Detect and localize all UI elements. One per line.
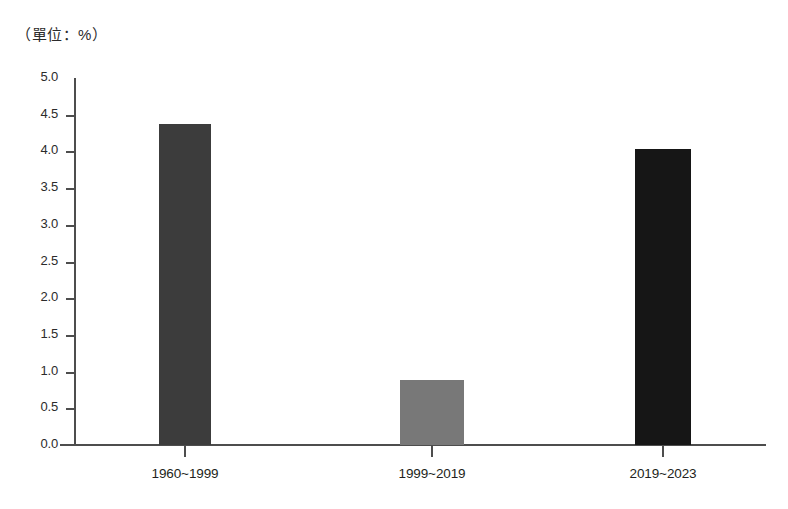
x-tick-mark xyxy=(184,446,186,457)
y-tick-mark xyxy=(66,151,75,153)
bar-1960~1999[interactable] xyxy=(159,124,211,445)
x-axis-label-1960~1999: 1960~1999 xyxy=(151,466,218,481)
x-axis-label-2019~2023: 2019~2023 xyxy=(629,466,696,481)
bar-1999~2019[interactable] xyxy=(400,380,464,445)
y-tick-mark xyxy=(66,225,75,227)
y-tick-label: 1.0 xyxy=(41,363,58,378)
y-tick-mark xyxy=(66,298,75,300)
x-tick-mark xyxy=(662,446,664,457)
y-tick-mark xyxy=(66,335,75,337)
y-tick-label: 1.5 xyxy=(41,326,58,341)
y-tick-label: 5.0 xyxy=(41,69,58,84)
y-tick-mark xyxy=(66,262,75,264)
y-tick-label: 3.5 xyxy=(41,179,58,194)
y-tick-mark xyxy=(66,115,75,117)
y-tick-label: 2.0 xyxy=(41,289,58,304)
y-tick-label: 3.0 xyxy=(41,216,58,231)
y-tick-mark xyxy=(66,408,75,410)
y-tick-mark xyxy=(66,372,75,374)
y-tick-label: 0.0 xyxy=(41,436,58,451)
y-tick-label: 4.0 xyxy=(41,142,58,157)
bar-2019~2023[interactable] xyxy=(635,149,691,445)
bar-chart: （單位：%） 5.04.54.03.53.02.52.01.51.00.50.0… xyxy=(0,0,788,509)
plot-area: 5.04.54.03.53.02.52.01.51.00.50.0 1960~1… xyxy=(0,0,788,509)
y-tick-label: 2.5 xyxy=(41,253,58,268)
x-tick-mark xyxy=(431,446,433,457)
y-tick-label: 0.5 xyxy=(41,399,58,414)
x-axis-label-1999~2019: 1999~2019 xyxy=(398,466,465,481)
y-tick-mark xyxy=(66,188,75,190)
y-tick-label: 4.5 xyxy=(41,106,58,121)
